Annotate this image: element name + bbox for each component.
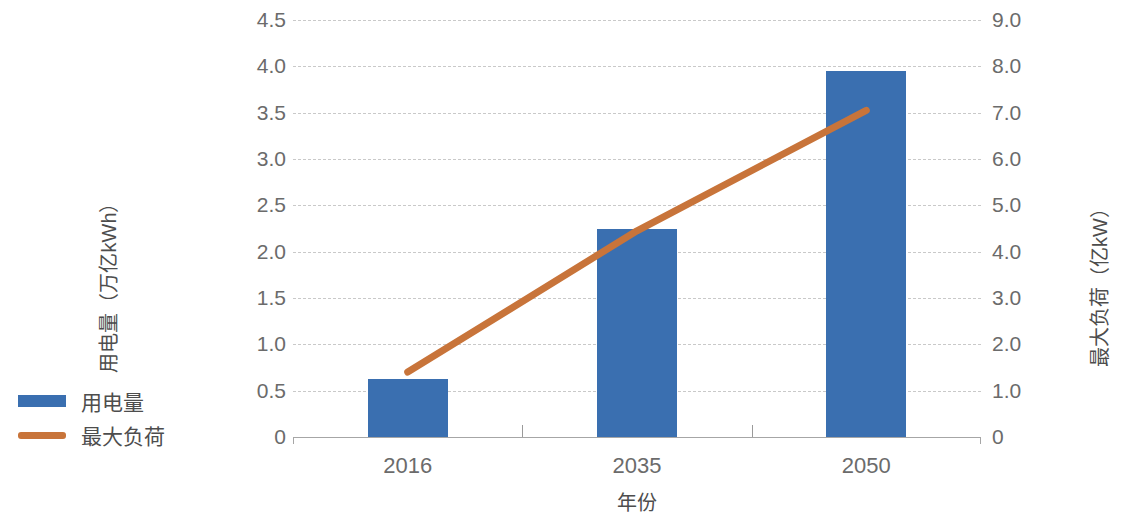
y-axis-left-tick-label: 2.0: [226, 241, 286, 262]
y-axis-right-tick-label: 8.0: [992, 55, 1052, 76]
y-axis-left-tick-label: 0.5: [226, 380, 286, 401]
y-axis-left-tick-label: 3.0: [226, 148, 286, 169]
x-axis-right-cap: [980, 437, 981, 444]
y-axis-right-tick-label: 0: [992, 426, 1052, 447]
max-load-line: [408, 110, 867, 372]
x-axis-line: [293, 437, 981, 438]
line-series: [293, 20, 981, 437]
y-axis-right-tick-label: 5.0: [992, 194, 1052, 215]
x-axis-tick-label: 2035: [613, 453, 662, 479]
y-axis-right-title: 最大负荷（亿kW）: [1084, 113, 1113, 453]
y-axis-right-tick-label: 6.0: [992, 148, 1052, 169]
y-axis-left-tick-label: 0: [226, 426, 286, 447]
y-axis-left-title: 用电量（万亿kWh）: [93, 113, 122, 453]
y-axis-left-tick-label: 4.0: [226, 55, 286, 76]
x-axis-left-cap: [293, 437, 294, 444]
y-axis-right-tick-label: 1.0: [992, 380, 1052, 401]
y-axis-right-tick-label: 7.0: [992, 102, 1052, 123]
y-axis-right-tick-label: 3.0: [992, 287, 1052, 308]
legend-line-swatch-icon: [18, 418, 68, 452]
plot-area: [293, 20, 981, 437]
chart-container: 用电量 最大负荷 用电量（万亿kWh） 最大负荷（亿kW） 年份 00.51.0…: [0, 0, 1121, 522]
y-axis-left-tick-label: 3.5: [226, 102, 286, 123]
x-axis-tick-label: 2016: [383, 453, 432, 479]
x-axis-tick-label: 2050: [842, 453, 891, 479]
legend-bar-swatch-icon: [18, 384, 68, 418]
y-axis-left-tick-label: 4.5: [226, 9, 286, 30]
y-axis-left-tick-label: 1.5: [226, 287, 286, 308]
y-axis-left-ticks: 00.51.01.52.02.53.03.54.04.5: [228, 0, 286, 522]
y-axis-right-tick-label: 4.0: [992, 241, 1052, 262]
y-axis-right-tick-label: 9.0: [992, 9, 1052, 30]
y-axis-right-tick-label: 2.0: [992, 333, 1052, 354]
y-axis-left-tick-label: 2.5: [226, 194, 286, 215]
y-axis-right-ticks: 01.02.03.04.05.06.07.08.09.0: [992, 0, 1052, 522]
y-axis-left-tick-label: 1.0: [226, 333, 286, 354]
